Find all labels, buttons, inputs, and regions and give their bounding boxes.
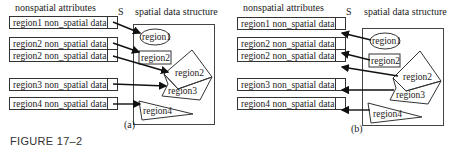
region2-poly-label: region2 [403, 72, 432, 82]
panel-b: nonspatial attributes S spatial data str… [226, 0, 451, 135]
arrow-region2-rect [342, 53, 370, 60]
arrow-region1 [342, 33, 371, 40]
panel-a: nonspatial attributes S spatial data str… [0, 0, 226, 135]
region4-label: region4 [143, 106, 172, 116]
arrow-region2-rect [113, 43, 139, 52]
region2-rect-label: region2 [371, 56, 400, 66]
arrow-region2-poly [342, 67, 398, 76]
region1-label: region1 [142, 32, 171, 42]
arrow-region3 [113, 84, 166, 86]
region2-rect-label: region2 [141, 53, 170, 63]
caption-a: (a) [124, 119, 135, 130]
spatial-shapes-and-arrows: region1 region2 region2 region3 region4 [226, 0, 451, 135]
spatial-shapes-and-arrows: region1 region2 region2 region3 region4 [0, 0, 226, 135]
caption-b: (b) [351, 123, 363, 134]
region3-label: region3 [396, 90, 425, 100]
region1-label: region1 [372, 36, 401, 46]
figure-label: FIGURE 17–2 [10, 135, 82, 147]
region2-poly-label: region2 [175, 68, 204, 78]
arrow-region1 [113, 22, 140, 33]
region4-label: region4 [373, 109, 402, 119]
region3-label: region3 [168, 86, 197, 96]
